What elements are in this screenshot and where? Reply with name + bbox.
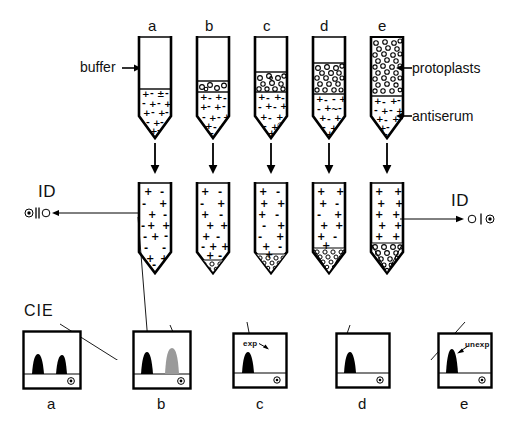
cie-panel-d (335, 332, 391, 389)
cie-note-unexp: unexp (465, 341, 490, 349)
svg-text:+: + (334, 113, 342, 123)
svg-text:-: - (397, 95, 401, 105)
svg-text:-: - (207, 101, 211, 111)
cie-letter-d: d (358, 396, 366, 411)
svg-text:-: - (222, 101, 226, 111)
top-tube-a: +-±- -+-+ +-+- -+- +- (134, 32, 176, 144)
figure-canvas: a b c d e buffer +-±- -+-+ +-+- -+- +- (0, 0, 519, 430)
svg-text:-: - (338, 103, 342, 113)
cie-letter-c: c (256, 396, 264, 411)
svg-text:-: - (142, 98, 146, 108)
svg-text:-: - (165, 88, 169, 98)
svg-text:+: + (316, 94, 324, 104)
antiserum-label: antiserum (412, 109, 473, 123)
cie-letter-e: e (460, 396, 468, 411)
top-tube-c: +-+- -+-+ +-+ -+○ + (250, 32, 292, 144)
cie-letter-a: a (47, 396, 55, 411)
protoplasts-label: protoplasts (412, 61, 480, 75)
svg-text:+: + (214, 102, 222, 112)
svg-text:-: - (151, 107, 155, 117)
cie-label: CIE (24, 303, 54, 319)
svg-text:-: - (332, 94, 336, 104)
cie-panel-c (232, 332, 288, 389)
tube-letter-b-top: b (205, 18, 213, 33)
top-tube-e: +-+- -+-+ +-+ +-+ - (366, 32, 408, 144)
tube-letter-c-top: c (263, 18, 271, 33)
tube-letter-a-top: a (148, 18, 156, 33)
svg-text:+: + (280, 101, 288, 111)
top-tube-d: +--+ -+~- +-+ -+ + (308, 32, 350, 144)
top-tube-b: +-+- +-+- -+-+ +-+ - (192, 32, 234, 144)
tube-letter-e-top: e (378, 18, 386, 33)
buffer-label: buffer (80, 60, 116, 74)
cie-note-exp: exp (243, 340, 257, 348)
svg-text:-: - (273, 102, 277, 112)
cie-panel-a (22, 330, 82, 390)
svg-text:-: - (150, 88, 154, 98)
svg-text:+: + (265, 101, 273, 111)
svg-text:-: - (258, 102, 262, 112)
svg-text:-: - (157, 98, 161, 108)
cie-letter-b: b (157, 396, 165, 411)
svg-text:-: - (165, 107, 169, 117)
tube-letter-d-top: d (320, 18, 328, 33)
cie-panel-b (132, 330, 192, 390)
